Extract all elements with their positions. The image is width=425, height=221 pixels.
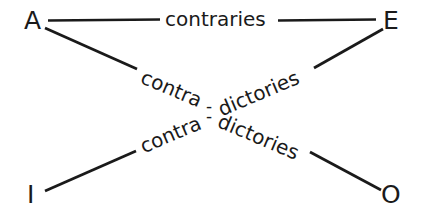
corner-label-e: E [383,8,399,33]
edge-label-lower-contradictories-hyphen: - [206,108,212,125]
corner-label-o: O [381,182,401,207]
diagram-lines [0,0,425,221]
corner-label-a: A [24,8,41,33]
corner-label-i: I [27,182,34,207]
edge-line-a-to-o-upper [45,28,137,69]
edge-line-contraries-left [48,20,160,21]
edge-line-contraries-right [278,20,376,21]
edge-label-contraries: contraries [165,9,266,29]
edge-line-e-to-i-upper [314,29,383,68]
edge-line-a-to-o-lower [310,152,381,190]
square-of-opposition-diagram: A E I O contraries contra - dictories co… [0,0,425,221]
edge-line-e-to-i-lower [45,151,136,191]
